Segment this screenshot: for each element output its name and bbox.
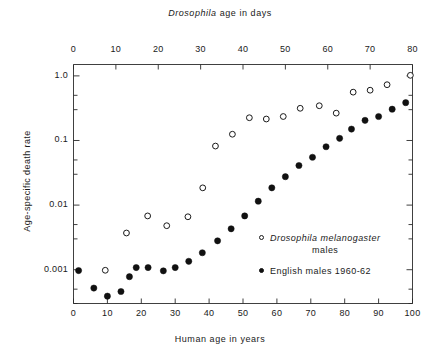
data-point-filled-circle [133, 264, 139, 270]
data-point-open-circle [263, 116, 269, 122]
data-point-filled-circle [145, 264, 151, 270]
data-point-filled-circle [348, 126, 354, 132]
top-tick-label-40: 40 [223, 44, 263, 54]
legend-label-english-males: English males 1960-62 [270, 265, 371, 277]
legend-label-drosophila: Drosophila melanogaster males [270, 232, 380, 256]
data-point-filled-circle [186, 258, 192, 264]
legend-marker-open-circle-icon [258, 232, 270, 243]
chart-figure: Drosophila age in days Human age in year… [0, 0, 440, 356]
data-point-open-circle [350, 89, 356, 95]
legend-label-species: Drosophila melanogaster [270, 233, 380, 243]
data-point-open-circle [200, 185, 206, 191]
y-tick-label-1.0: 1.0 [24, 70, 68, 80]
data-point-filled-circle [323, 144, 329, 150]
top-tick-label-80: 80 [393, 44, 433, 54]
data-point-filled-circle [255, 198, 261, 204]
data-point-filled-circle [242, 213, 248, 219]
y-tick-label-0.01: 0.01 [24, 199, 68, 209]
data-point-open-circle [280, 114, 286, 120]
data-point-filled-circle [389, 106, 395, 112]
data-point-filled-circle [104, 293, 110, 299]
data-point-open-circle [102, 267, 108, 273]
data-point-open-circle [164, 223, 170, 229]
top-tick-label-30: 30 [181, 44, 221, 54]
data-point-filled-circle [362, 117, 368, 123]
data-point-open-circle [316, 103, 322, 109]
data-point-filled-circle [172, 264, 178, 270]
data-point-open-circle [185, 214, 191, 220]
top-tick-label-50: 50 [265, 44, 305, 54]
data-point-open-circle [213, 143, 219, 149]
data-point-open-circle [384, 82, 390, 88]
legend-item-drosophila: Drosophila melanogaster males [258, 232, 380, 256]
top-tick-label-70: 70 [350, 44, 390, 54]
data-point-filled-circle [309, 154, 315, 160]
data-point-filled-circle [296, 162, 302, 168]
data-point-filled-circle [160, 268, 166, 274]
data-point-filled-circle [118, 288, 124, 294]
legend-label-males: males [270, 244, 380, 256]
data-point-filled-circle [403, 100, 409, 106]
data-point-filled-circle [228, 226, 234, 232]
data-point-open-circle [297, 105, 303, 111]
top-tick-label-60: 60 [308, 44, 348, 54]
data-point-open-circle [246, 115, 252, 121]
data-point-open-circle [124, 230, 130, 236]
data-point-filled-circle [337, 135, 343, 141]
legend-item-english-males: English males 1960-62 [258, 265, 380, 277]
data-point-filled-circle [269, 185, 275, 191]
data-point-open-circle [333, 110, 339, 116]
top-tick-label-10: 10 [96, 44, 136, 54]
data-point-open-circle [230, 131, 236, 137]
data-point-open-circle [407, 72, 413, 78]
data-point-filled-circle [75, 267, 81, 273]
top-tick-label-20: 20 [138, 44, 178, 54]
data-point-filled-circle [91, 285, 97, 291]
y-tick-label-0.1: 0.1 [24, 134, 68, 144]
data-point-open-circle [145, 213, 151, 219]
y-tick-label-0.001: 0.001 [24, 264, 68, 274]
data-point-filled-circle [126, 274, 132, 280]
data-point-open-circle [367, 87, 373, 93]
data-point-filled-circle [214, 238, 220, 244]
bottom-tick-label-100: 100 [393, 308, 433, 318]
legend-marker-filled-circle-icon [258, 265, 270, 276]
top-tick-label-0: 0 [54, 44, 94, 54]
data-point-filled-circle [282, 174, 288, 180]
data-point-filled-circle [199, 250, 205, 256]
data-point-filled-circle [376, 113, 382, 119]
chart-legend: Drosophila melanogaster males English ma… [258, 232, 380, 286]
